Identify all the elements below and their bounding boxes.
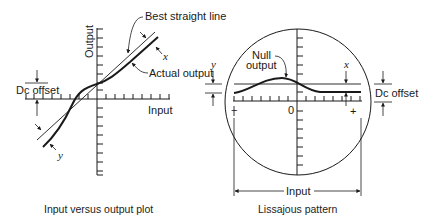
null-output-label-line2: output xyxy=(246,59,277,71)
right-caption: Lissajous pattern xyxy=(258,203,338,215)
y-gap-arrow-bottom xyxy=(50,144,56,150)
diagram-canvas: Output Input Best straight line Actual o… xyxy=(0,0,423,224)
origin-label: 0 xyxy=(288,104,294,116)
x-gap-arrow-bottom xyxy=(156,47,162,54)
input-span-label: Input xyxy=(286,185,310,197)
left-caption: Input versus output plot xyxy=(44,203,153,215)
actual-output-curve xyxy=(43,37,158,147)
output-axis-label: Output xyxy=(83,25,95,58)
lissajous-plot: Null output y x Dc offset − 0 + Input Li… xyxy=(205,29,418,215)
actual-output-leader xyxy=(132,63,148,73)
y-gap-arrow-top xyxy=(35,124,41,130)
input-axis-label: Input xyxy=(148,104,172,116)
x-gap-arrow-top xyxy=(140,32,146,38)
output-axis-ticks xyxy=(97,29,103,175)
y-label-left: y xyxy=(57,149,63,161)
actual-output-label: Actual output xyxy=(149,67,213,79)
dc-offset-label-right: Dc offset xyxy=(375,87,418,99)
input-output-plot: Output Input Best straight line Actual o… xyxy=(16,10,226,215)
null-output-leader xyxy=(275,56,286,77)
scope-screen-circle xyxy=(225,29,371,175)
dc-offset-label-left: Dc offset xyxy=(16,84,59,96)
x-label-left: x xyxy=(162,50,168,62)
x-label-right: x xyxy=(343,58,349,70)
best-straight-line-leader xyxy=(128,17,143,53)
best-straight-line-label: Best straight line xyxy=(145,10,226,22)
plus-marker: + xyxy=(350,105,356,117)
y-label-right: y xyxy=(210,58,216,70)
